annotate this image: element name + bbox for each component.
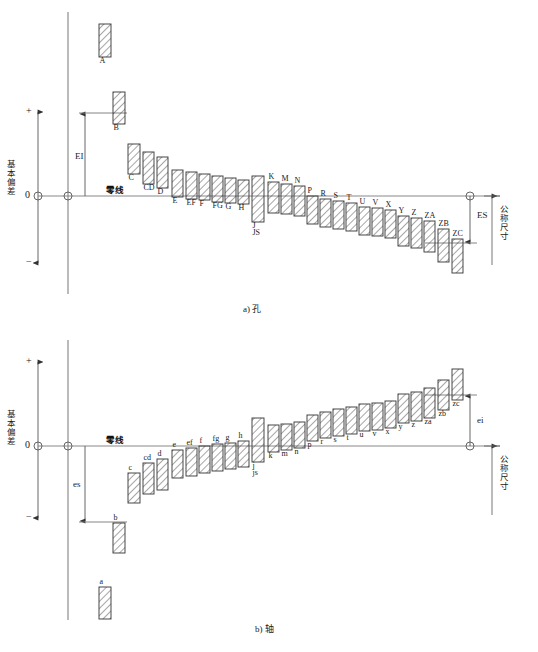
tolerance-zone-label-cd: cd — [144, 454, 152, 462]
shaft-caption: b) 轴 — [255, 622, 274, 635]
tolerance-zone-box — [452, 239, 463, 273]
tolerance-zone-box — [346, 203, 357, 231]
tolerance-zone-label-U: U — [360, 198, 366, 206]
tolerance-zone-label-X: X — [386, 201, 392, 209]
tolerance-zone-label-u: u — [360, 431, 364, 439]
tolerance-zone-box — [113, 523, 125, 553]
tolerance-zone-label-ZB: ZB — [439, 220, 449, 228]
tolerance-zone-label-s: s — [334, 436, 337, 444]
shaft-axis-minus-label: − — [26, 511, 32, 522]
hole-zone-boxes — [99, 24, 463, 273]
tolerance-zone-box — [212, 176, 223, 202]
tolerance-zone-box — [225, 178, 236, 203]
tolerance-zone-box — [424, 388, 435, 418]
tolerance-zone-box — [411, 392, 422, 421]
tolerance-zone-box — [268, 425, 279, 452]
tolerance-zone-label-G: G — [226, 203, 232, 211]
tolerance-zone-figure: + 0 − 基本偏差 零线 EI ES 公称尺寸 a) 孔 + 0 − 基本偏差… — [0, 0, 538, 652]
tolerance-zone-label-CD: CD — [144, 184, 155, 192]
shaft-basic-deviation-axis-label: 基本偏差 — [4, 410, 16, 446]
tolerance-zone-label-E: E — [173, 197, 178, 205]
tolerance-zone-label-x: x — [386, 428, 390, 436]
tolerance-zone-label-fg: fg — [213, 435, 220, 443]
tolerance-zone-box — [143, 463, 154, 494]
hole-nominal-size-label: 公称尺寸 — [497, 205, 509, 241]
tolerance-zone-box — [157, 157, 168, 188]
tolerance-zone-label-F: F — [200, 200, 204, 208]
tolerance-zone-box — [238, 180, 249, 204]
tolerance-zone-box — [452, 369, 463, 400]
tolerance-zone-label-T: T — [347, 194, 352, 202]
tolerance-zone-label-JS: JS — [253, 229, 261, 237]
tolerance-zone-box — [372, 208, 383, 236]
tolerance-zone-box — [186, 172, 197, 199]
tolerance-zone-box — [320, 412, 331, 438]
tolerance-zone-box — [143, 152, 154, 184]
tolerance-zone-label-r: r — [321, 438, 324, 446]
tolerance-zone-box — [438, 380, 449, 410]
shaft-zero-line-label: 零线 — [106, 433, 124, 445]
tolerance-zone-label-h: h — [239, 432, 243, 440]
tolerance-zone-box — [372, 403, 383, 430]
tolerance-zone-box — [128, 144, 140, 174]
tolerance-zone-box — [398, 216, 409, 246]
shaft-nominal-size-label: 公称尺寸 — [497, 455, 509, 491]
tolerance-zone-label-k: k — [269, 452, 273, 460]
tolerance-zone-label-g: g — [226, 434, 230, 442]
tolerance-zone-box — [359, 207, 370, 235]
hole-caption: a) 孔 — [243, 302, 261, 315]
tolerance-zone-label-v: v — [373, 430, 377, 438]
tolerance-zone-box — [281, 424, 292, 450]
tolerance-zone-box — [294, 186, 305, 216]
tolerance-zone-box — [252, 176, 264, 222]
tolerance-zone-label-y: y — [399, 423, 403, 431]
tolerance-zone-label-zb: zb — [439, 410, 447, 418]
tolerance-zone-label-d: d — [158, 450, 162, 458]
hole-panel — [34, 12, 500, 294]
tolerance-zone-box — [398, 394, 409, 423]
shaft-zone-boxes — [99, 369, 463, 619]
tolerance-zone-label-ef: ef — [187, 439, 193, 447]
tolerance-zone-label-t: t — [347, 434, 349, 442]
tolerance-zone-box — [385, 210, 396, 238]
tolerance-zone-label-ZC: ZC — [453, 230, 463, 238]
tolerance-zone-box — [225, 443, 236, 469]
tolerance-zone-label-EF: EF — [187, 199, 196, 207]
tolerance-zone-label-B: B — [114, 124, 119, 132]
tolerance-zone-box — [157, 459, 168, 490]
shaft-ei-label: ei — [477, 416, 484, 425]
tolerance-zone-label-K: K — [269, 173, 275, 181]
hole-zero-line-label: 零线 — [106, 183, 124, 195]
shaft-es-label: es — [73, 480, 81, 489]
tolerance-zone-label-m: m — [282, 450, 288, 458]
tolerance-zone-box — [424, 221, 435, 252]
tolerance-zone-box — [281, 184, 292, 214]
diagram-canvas — [0, 0, 538, 652]
tolerance-zone-box — [320, 199, 331, 227]
tolerance-zone-box — [268, 182, 279, 213]
tolerance-zone-box — [359, 404, 370, 431]
tolerance-zone-label-R: R — [321, 190, 326, 198]
tolerance-zone-box — [99, 24, 111, 57]
tolerance-zone-label-V: V — [373, 199, 379, 207]
tolerance-zone-box — [172, 450, 183, 478]
tolerance-zone-box — [99, 587, 111, 619]
hole-EI-label: EI — [75, 152, 84, 161]
tolerance-zone-label-S: S — [334, 192, 338, 200]
tolerance-zone-label-H: H — [239, 204, 245, 212]
tolerance-zone-label-n: n — [295, 448, 299, 456]
tolerance-zone-box — [186, 448, 197, 476]
tolerance-zone-box — [172, 170, 183, 197]
tolerance-zone-label-ZA: ZA — [425, 212, 436, 220]
shaft-panel — [34, 340, 500, 620]
tolerance-zone-box — [199, 446, 210, 473]
tolerance-zone-label-f: f — [200, 437, 203, 445]
tolerance-zone-box — [128, 473, 140, 503]
hole-ES-label: ES — [477, 211, 488, 220]
tolerance-zone-box — [385, 401, 396, 428]
tolerance-zone-label-js: js — [253, 469, 258, 477]
shaft-axis-zero-label: 0 — [25, 439, 30, 450]
tolerance-zone-box — [199, 174, 210, 200]
tolerance-zone-label-A: A — [100, 57, 106, 65]
tolerance-zone-label-z: z — [412, 421, 416, 429]
